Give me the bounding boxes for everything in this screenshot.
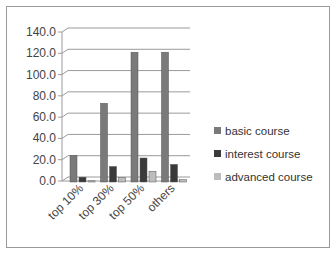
legend-swatch-icon xyxy=(214,173,221,180)
x-tick-label: others xyxy=(144,181,177,214)
legend-swatch-icon xyxy=(214,127,221,134)
bar xyxy=(149,171,156,182)
bar xyxy=(131,52,138,182)
legend-item: advanced course xyxy=(214,165,313,188)
legend-item: basic course xyxy=(214,119,313,142)
y-tick-label: 40.0 xyxy=(33,131,57,145)
chart-legend: basic courseinterest courseadvanced cour… xyxy=(214,119,313,188)
bar xyxy=(88,181,95,182)
bar xyxy=(110,167,117,182)
y-tick-label: 80.0 xyxy=(33,89,57,103)
bar xyxy=(101,103,108,182)
bar xyxy=(162,52,169,182)
bar xyxy=(171,164,178,182)
bar xyxy=(119,178,126,182)
bar xyxy=(70,155,77,182)
y-tick-label: 20.0 xyxy=(33,153,57,167)
bar xyxy=(180,180,187,182)
y-tick-label: 60.0 xyxy=(33,110,57,124)
legend-swatch-icon xyxy=(214,150,221,157)
y-tick-label: 0.0 xyxy=(39,174,56,188)
legend-item: interest course xyxy=(214,142,313,165)
y-tick-label: 120.0 xyxy=(26,46,56,60)
legend-label: advanced course xyxy=(225,171,313,183)
bar xyxy=(79,177,86,182)
bar xyxy=(140,158,147,182)
y-tick-label: 140.0 xyxy=(26,25,56,39)
legend-label: basic course xyxy=(225,125,290,137)
y-tick-label: 100.0 xyxy=(26,68,56,82)
legend-label: interest course xyxy=(225,148,300,160)
